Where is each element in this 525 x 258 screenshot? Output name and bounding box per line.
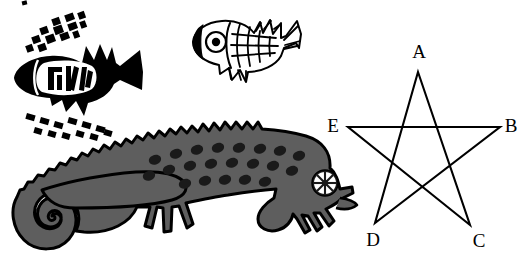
star-vertex-label-e: E bbox=[327, 115, 339, 136]
black-fish-eye bbox=[25, 73, 32, 80]
chameleon-pupil bbox=[322, 180, 328, 186]
figure-artwork: A B C D E bbox=[0, 0, 525, 258]
star-vertex-label-a: A bbox=[412, 41, 426, 62]
star-vertex-label-b: B bbox=[505, 115, 518, 136]
star-vertex-label-c: C bbox=[473, 230, 486, 251]
star-vertex-label-d: D bbox=[366, 229, 380, 250]
outline-fish-pupil bbox=[212, 38, 220, 46]
figure-canvas: A B C D E bbox=[0, 0, 525, 258]
